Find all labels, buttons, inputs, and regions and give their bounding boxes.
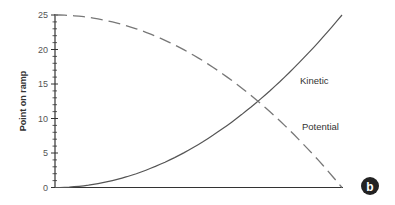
y-tick-label: 25 <box>38 10 48 20</box>
y-tick-label: 10 <box>38 114 48 124</box>
kinetic-series <box>55 15 342 188</box>
chart: 0510152025 Point on ramp Kinetic Potenti… <box>0 0 395 205</box>
y-axis: 0510152025 <box>38 10 58 193</box>
y-tick-label: 5 <box>43 148 48 158</box>
panel-label-badge: b <box>361 177 379 195</box>
kinetic-label: Kinetic <box>300 75 329 86</box>
y-tick-label: 0 <box>43 183 48 193</box>
potential-label: Potential <box>302 121 339 132</box>
y-tick-label: 20 <box>38 45 48 55</box>
y-axis-label: Point on ramp <box>18 70 28 131</box>
panel-label: b <box>366 180 373 194</box>
potential-series <box>55 15 342 188</box>
y-tick-label: 15 <box>38 79 48 89</box>
